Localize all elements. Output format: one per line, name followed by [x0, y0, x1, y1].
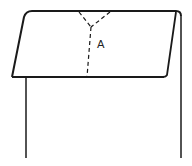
fold-diagram: A: [0, 0, 192, 166]
diagram-canvas: A: [0, 0, 192, 166]
flap-right-edge: [163, 12, 176, 77]
dashed-fold-line: [79, 12, 110, 77]
label-a: A: [97, 38, 105, 51]
